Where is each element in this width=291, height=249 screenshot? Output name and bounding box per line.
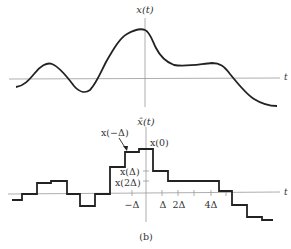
label-x-minus-delta: x(−Δ) bbox=[101, 127, 129, 138]
bottom-ylabel: x̂(t) bbox=[137, 116, 155, 127]
top-t-axis bbox=[9, 78, 280, 79]
top-plot: x(t) t bbox=[9, 4, 288, 107]
bottom-xlabel: t bbox=[284, 187, 288, 197]
tick-minus-delta: −Δ bbox=[125, 199, 140, 210]
tick-2delta: 2Δ bbox=[173, 199, 186, 210]
continuous-signal-curve bbox=[16, 29, 277, 106]
label-x-zero: x(0) bbox=[150, 137, 169, 148]
bottom-plot: x̂(t) t x(−Δ) x(0) x(Δ) x(2Δ) −Δ Δ 2Δ 4Δ bbox=[8, 116, 288, 222]
label-x-2delta: x(2Δ) bbox=[115, 177, 141, 188]
signal-diagram: x(t) t x̂(t) t x(−Δ) x(0) x(Δ) x(2Δ) −Δ … bbox=[0, 0, 291, 249]
tick-delta: Δ bbox=[160, 199, 167, 210]
label-x-delta: x(Δ) bbox=[120, 166, 140, 177]
top-ylabel: x(t) bbox=[136, 4, 154, 15]
tick-4delta: 4Δ bbox=[205, 199, 218, 210]
sampled-staircase-signal bbox=[12, 149, 273, 220]
arrowhead-icon bbox=[123, 146, 128, 151]
bottom-t-axis bbox=[8, 192, 280, 194]
figure-caption: (b) bbox=[139, 231, 153, 242]
top-xlabel: t bbox=[284, 72, 288, 82]
